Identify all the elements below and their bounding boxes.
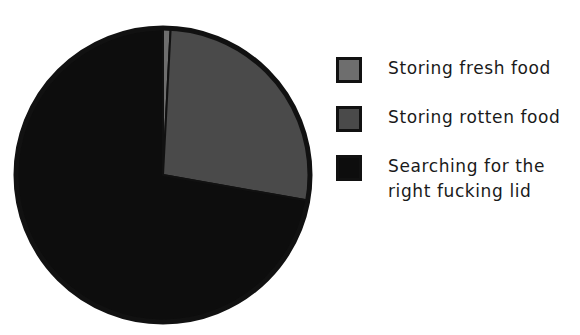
legend-item-searching-for-lid[interactable]: Searching for the right fucking lid — [336, 154, 580, 204]
legend: Storing fresh food Storing rotten food S… — [336, 56, 580, 226]
pie-chart-figure: Storing fresh food Storing rotten food S… — [0, 0, 580, 335]
pie-svg — [0, 0, 340, 335]
legend-label-searching-for-lid: Searching for the right fucking lid — [388, 154, 545, 204]
legend-swatch-icon-storing-rotten-food — [336, 106, 362, 132]
legend-swatch-icon-searching-for-lid — [336, 155, 362, 181]
legend-swatch-icon-storing-fresh-food — [336, 57, 362, 83]
legend-item-storing-rotten-food[interactable]: Storing rotten food — [336, 105, 580, 132]
pie-slice-storing-rotten-food[interactable] — [163, 28, 310, 200]
pie-plot-area — [0, 0, 340, 335]
legend-label-storing-rotten-food: Storing rotten food — [388, 105, 561, 130]
legend-label-storing-fresh-food: Storing fresh food — [388, 56, 551, 81]
legend-item-storing-fresh-food[interactable]: Storing fresh food — [336, 56, 580, 83]
